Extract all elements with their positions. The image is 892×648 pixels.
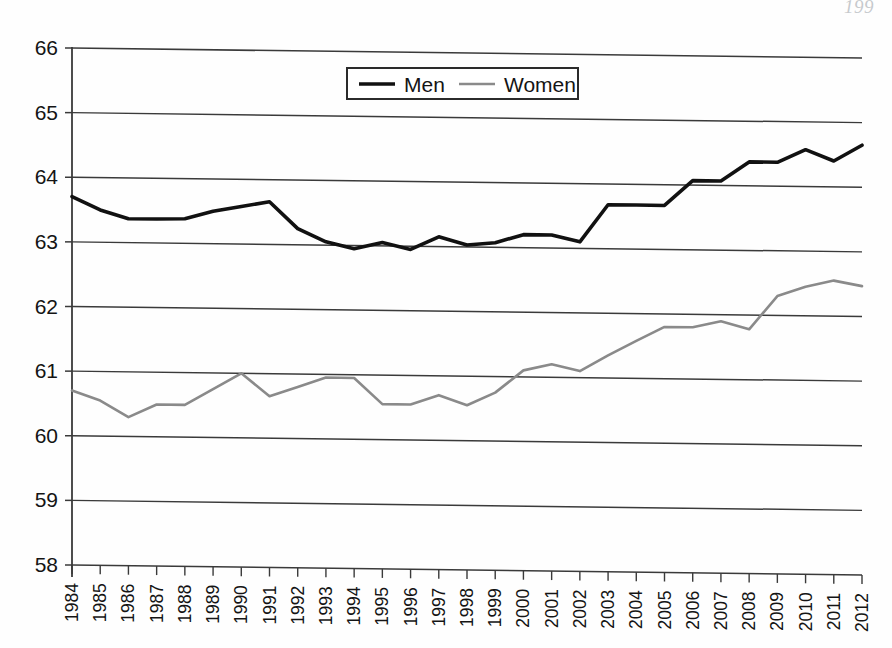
x-axis-tick-label: 2001 [542, 589, 562, 628]
x-axis-tick-labels: 1984198519861987198819891990199119921993… [62, 583, 872, 632]
gridlines-group [72, 48, 862, 575]
x-axis-tick-label: 2012 [852, 593, 872, 632]
x-axis-tick-label: 2011 [824, 593, 844, 631]
y-axis-tick-label: 66 [35, 36, 58, 59]
scanned-page: 199 585960616263646566 19841985198619871… [0, 0, 892, 648]
x-axis-tick-label: 2005 [655, 591, 675, 630]
y-axis-tick-labels: 585960616263646566 [35, 36, 59, 576]
x-axis-tick-label: 2002 [570, 589, 590, 628]
y-axis-tick-label: 61 [35, 359, 58, 382]
x-axis-tick-label: 2010 [796, 592, 816, 631]
x-axis-tick-label: 1996 [401, 587, 421, 626]
x-axis-tick-label: 1991 [260, 586, 280, 625]
gridline [72, 48, 862, 58]
legend-label-women: Women [504, 73, 576, 96]
x-axis-tick-label: 1985 [90, 583, 110, 622]
x-axis-tick-label: 1989 [203, 585, 223, 624]
x-axis-tick-label: 2000 [513, 588, 533, 627]
gridline [72, 371, 862, 381]
x-axis-tick-label: 1997 [429, 588, 449, 627]
x-axis-tick-label: 1994 [344, 586, 364, 625]
x-axis-tick-label: 2003 [598, 590, 618, 629]
gridline [72, 177, 862, 187]
y-axis-tick-label: 62 [35, 295, 58, 318]
x-axis-tick-label: 1995 [372, 587, 392, 626]
y-axis-tick-label: 59 [35, 488, 58, 511]
y-axis-tick-label: 63 [35, 230, 58, 253]
x-axis-tick-label: 1992 [288, 586, 308, 625]
gridline [72, 436, 862, 446]
x-axis-tick-label: 2007 [711, 591, 731, 630]
x-axis-tick-label: 1998 [457, 588, 477, 627]
chart-legend: MenWomen [347, 68, 578, 99]
x-axis-tick-label: 1988 [175, 584, 195, 623]
gridline [72, 307, 862, 317]
y-axis-tick-label: 64 [35, 165, 59, 188]
x-axis-tick-label: 1990 [231, 585, 251, 624]
gridline [72, 113, 862, 123]
x-axis-tick-label: 1986 [118, 584, 138, 623]
y-axis-tick-label: 65 [35, 101, 58, 124]
x-axis-tick-label: 2009 [767, 592, 787, 631]
x-axis-tick-label: 1993 [316, 586, 336, 625]
x-axis-tick-label: 2008 [739, 592, 759, 631]
x-axis-tick-label: 2006 [683, 591, 703, 630]
x-axis-tick-label: 1987 [147, 584, 167, 623]
legend-label-men: Men [404, 73, 445, 96]
line-chart: 585960616263646566 198419851986198719881… [0, 0, 892, 648]
x-axis-tick-label: 2004 [626, 590, 646, 629]
gridline [72, 500, 862, 510]
series-line-men [72, 145, 862, 249]
y-axis-tick-label: 58 [35, 553, 58, 576]
y-axis-tick-label: 60 [35, 424, 58, 447]
x-axis-tick-label: 1984 [62, 583, 82, 622]
chart-canvas: 585960616263646566 198419851986198719881… [0, 0, 892, 648]
series-line-women [72, 281, 862, 417]
x-axis-tick-label: 1999 [485, 588, 505, 627]
